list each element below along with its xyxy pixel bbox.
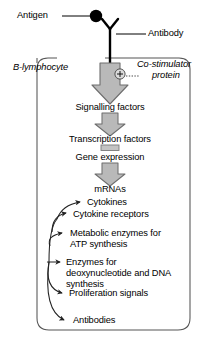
product-label-cytokine-receptors: Cytokine receptors bbox=[73, 209, 149, 220]
curve-to-antibodies bbox=[48, 262, 64, 320]
cascade-step-gene-expression: Gene expression bbox=[76, 152, 145, 163]
product-label-proliferation-signals: Proliferation signals bbox=[69, 288, 148, 299]
antigen-icon bbox=[90, 10, 102, 22]
antibody-label: Antibody bbox=[148, 28, 183, 39]
antibody-icon bbox=[102, 19, 118, 68]
curve-to-proliferation-signals bbox=[48, 262, 62, 293]
cascade-step-mrnas: mRNAs bbox=[94, 184, 126, 195]
co-stimulator-label-line1: Co-stimulator bbox=[137, 59, 191, 70]
cascade-step-transcription-factors: Transcription factors bbox=[69, 134, 151, 145]
connector-to-gene-expression bbox=[101, 145, 119, 151]
arrow-to-transcription-factors bbox=[95, 113, 125, 136]
product-label-dna-enzymes: Enzymes for deoxynucleo­tide and DNA syn… bbox=[66, 257, 172, 290]
fan-spine bbox=[49, 219, 57, 262]
cell-label: B-lymphocyte bbox=[13, 62, 68, 73]
co-stimulator-plus-icon bbox=[115, 69, 140, 79]
arrow-to-mrnas bbox=[95, 163, 125, 186]
antigen-label: Antigen bbox=[17, 10, 48, 21]
product-label-metabolic-enzymes: Metabolic enzymes for ATP synthesis bbox=[70, 228, 166, 250]
product-label-cytokines: Cytokines bbox=[87, 197, 127, 208]
product-label-antibodies: Antibodies bbox=[73, 315, 115, 326]
co-stimulator-label-line2: protein bbox=[152, 70, 180, 81]
cascade-step-signalling-factors: Signalling factors bbox=[76, 102, 145, 113]
b-lymphocyte-diagram: Antigen Antibody B-lymphocyte Co-stimula… bbox=[0, 0, 216, 350]
